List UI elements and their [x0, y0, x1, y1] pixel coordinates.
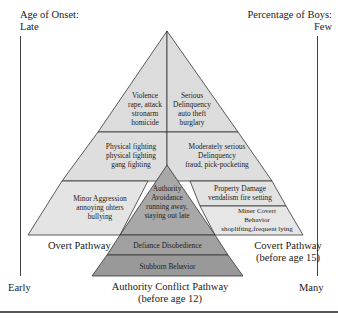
overt-violence-text: Violence rape, attack stronarm homicide	[123, 91, 167, 127]
covert-property-damage-text: Property Damage vendalism fire setting	[198, 184, 282, 202]
authority-avoidance-text: Authority Avoidance running away, stayin…	[137, 184, 197, 220]
authority-defiance-text: Defiance Disobedience	[120, 241, 215, 250]
covert-serious-delinquency-text: Serious Delinquency auto theft burglary	[169, 91, 215, 127]
overt-minor-aggression-text: Minor Aggression annoying ohters bullyin…	[60, 194, 140, 221]
authority-stubborn-text: Stubborn Behavior	[107, 262, 228, 271]
authority-pathway-label: Authority Conflict Pathway (before age 1…	[100, 281, 240, 305]
bottom-divider	[0, 311, 338, 313]
pathways-diagram: Age of Onset: Late Early Percentage of B…	[0, 0, 338, 318]
overt-pathway-label: Overt Pathway	[48, 240, 111, 252]
overt-physical-fighting-text: Physical fighting physical fighting gang…	[96, 142, 166, 169]
covert-moderately-serious-text: Moderately serious Delinquency fraud, pi…	[172, 142, 262, 169]
covert-pathway-label: Covert Pathway (before age 15)	[240, 240, 336, 264]
covert-minor-behavior-text: Miner Covert Behavior shoplifting,freque…	[210, 207, 304, 234]
